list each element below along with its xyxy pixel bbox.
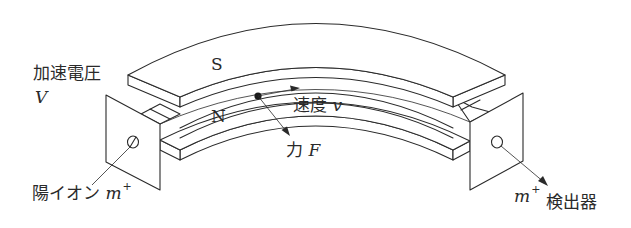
pole-s-label: S — [211, 56, 223, 73]
ion-source-text: 陽イオン — [32, 183, 100, 203]
force-symbol: F — [308, 140, 320, 160]
ion-source-label: 陽イオン m+ — [32, 185, 132, 202]
pole-n-label: N — [211, 108, 226, 125]
detector-label: m+ 検出器 — [514, 188, 597, 205]
pole-n-text: N — [211, 106, 226, 126]
accel-voltage-label: 加速電圧 — [33, 65, 101, 82]
accel-voltage-text: 加速電圧 — [33, 63, 101, 83]
velocity-label: 速度 v — [293, 97, 342, 114]
velocity-text: 速度 — [293, 95, 327, 115]
right-plate — [470, 93, 548, 190]
pole-s-text: S — [211, 54, 223, 74]
detector-text: 検出器 — [546, 192, 597, 212]
force-text: 力 — [286, 140, 303, 160]
detector-mass-symbol: m — [514, 186, 530, 206]
accel-voltage-symbol: V — [35, 89, 47, 106]
ion-charge-symbol: + — [123, 180, 132, 193]
voltage-symbol-text: V — [35, 87, 47, 107]
velocity-arrow-head-icon — [290, 86, 300, 92]
velocity-symbol: v — [332, 95, 342, 115]
ion-mass-symbol: m — [105, 183, 121, 203]
force-label: 力 F — [286, 142, 320, 159]
velocity-arrow — [258, 89, 295, 96]
detector-charge-symbol: + — [531, 183, 540, 196]
